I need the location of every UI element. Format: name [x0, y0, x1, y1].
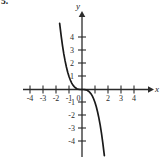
y-label-minus2: -2: [68, 111, 75, 120]
x-label-3: 3: [119, 94, 123, 103]
x-axis-arrowhead: [148, 86, 154, 93]
x-label-2: 2: [106, 94, 110, 103]
x-label-4: 4: [132, 94, 136, 103]
y-label-3: 3: [70, 46, 74, 55]
y-axis: [79, 11, 86, 157]
x-axis-label: x: [154, 84, 159, 94]
x-label-minus2: -2: [53, 94, 60, 103]
x-label-minus3: -3: [40, 94, 47, 103]
y-label-2: 2: [70, 59, 74, 68]
coordinate-plane-graph: -4 -3 -2 -1 0 2 3 4 4 3 2 1 -1 -2 -3 -4 …: [0, 0, 165, 164]
y-label-minus3: -3: [68, 124, 75, 133]
y-label-minus4: -4: [68, 137, 75, 146]
y-axis-label: y: [75, 1, 80, 11]
y-label-4: 4: [70, 33, 74, 42]
origin-label: 0: [77, 94, 81, 103]
math-figure: 5.: [0, 0, 165, 164]
y-label-minus1: -1: [68, 98, 75, 107]
x-label-minus4: -4: [27, 94, 34, 103]
y-axis-arrowhead: [79, 11, 86, 17]
